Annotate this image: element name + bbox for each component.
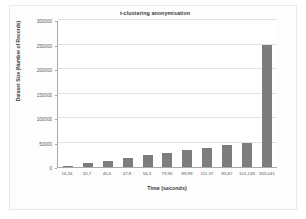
bar-slot xyxy=(197,21,217,167)
x-axis-tick-label: 56,3 xyxy=(137,171,157,181)
bar xyxy=(162,153,172,167)
bar xyxy=(103,161,113,167)
bar-slot xyxy=(58,21,78,167)
bar xyxy=(202,148,212,167)
bar-slot xyxy=(138,21,158,167)
plot-area xyxy=(57,21,277,168)
gridline xyxy=(58,19,277,20)
bar xyxy=(123,158,133,167)
bar xyxy=(63,166,73,167)
y-axis-tick-label: 100000 xyxy=(37,117,52,122)
bar xyxy=(222,145,232,167)
x-axis-tick-labels: 16,3432,745,647,856,379,9589,99111,3785,… xyxy=(57,171,277,181)
y-axis-tick-mark xyxy=(55,168,57,169)
x-axis-tick-label: 305,041 xyxy=(257,171,277,181)
bar-slot xyxy=(158,21,178,167)
y-axis-tick-label: 300000 xyxy=(37,19,52,24)
chart-figure: t-clustering anonymisation Dataset Size … xyxy=(0,0,306,219)
y-axis-tick-label: 250000 xyxy=(37,43,52,48)
y-axis-tick-label: 50000 xyxy=(39,141,52,146)
bar xyxy=(143,155,153,167)
x-axis-tick-label: 89,99 xyxy=(177,171,197,181)
x-axis-title: Time (seconds) xyxy=(57,185,277,191)
x-axis-tick-label: 101,148 xyxy=(237,171,257,181)
bar xyxy=(83,163,93,167)
chart-title: t-clustering anonymisation xyxy=(60,10,250,16)
bar-slot xyxy=(78,21,98,167)
y-axis-tick-label: 0 xyxy=(49,166,52,171)
bar xyxy=(182,150,192,167)
bar-slot xyxy=(217,21,237,167)
y-axis-tick-labels: 050000100000150000200000250000300000 xyxy=(14,21,54,168)
x-axis-tick-label: 85,87 xyxy=(217,171,237,181)
x-axis-tick-label: 79,95 xyxy=(157,171,177,181)
bar xyxy=(242,143,252,167)
x-axis-tick-label: 45,6 xyxy=(97,171,117,181)
bar-slot xyxy=(98,21,118,167)
bar-slot xyxy=(257,21,277,167)
bar-slot xyxy=(237,21,257,167)
bar-slot xyxy=(177,21,197,167)
x-axis-tick-label: 16,34 xyxy=(57,171,77,181)
x-axis-tick-label: 47,8 xyxy=(117,171,137,181)
bar xyxy=(262,45,272,168)
bar-series xyxy=(58,21,277,167)
y-axis-tick-label: 200000 xyxy=(37,68,52,73)
x-axis-tick-label: 32,7 xyxy=(77,171,97,181)
x-axis-tick-label: 111,37 xyxy=(197,171,217,181)
y-axis-tick-label: 150000 xyxy=(37,92,52,97)
bar-slot xyxy=(118,21,138,167)
